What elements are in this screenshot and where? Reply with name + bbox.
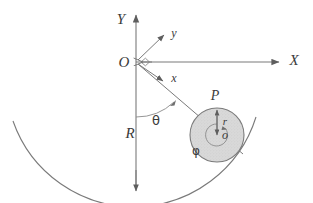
diagram-canvas: X Y O y x R r θ φ P o xyxy=(0,0,313,203)
label-origin-O: O xyxy=(119,54,130,70)
physics-diagram: X Y O y x R r θ φ P o xyxy=(0,0,313,203)
label-axis-X: X xyxy=(288,52,299,68)
label-point-P: P xyxy=(210,88,220,103)
label-angle-phi: φ xyxy=(192,144,200,158)
label-angle-theta: θ xyxy=(152,113,160,128)
label-axis-y-small: y xyxy=(170,26,177,40)
body-y-axis-line xyxy=(138,35,164,60)
label-axis-x-small: x xyxy=(170,71,177,85)
label-radius-R: R xyxy=(124,125,134,141)
body-x-axis-line xyxy=(138,64,163,81)
label-disk-center-o: o xyxy=(222,128,228,142)
label-axis-Y: Y xyxy=(117,11,127,27)
label-radius-r: r xyxy=(223,115,228,127)
